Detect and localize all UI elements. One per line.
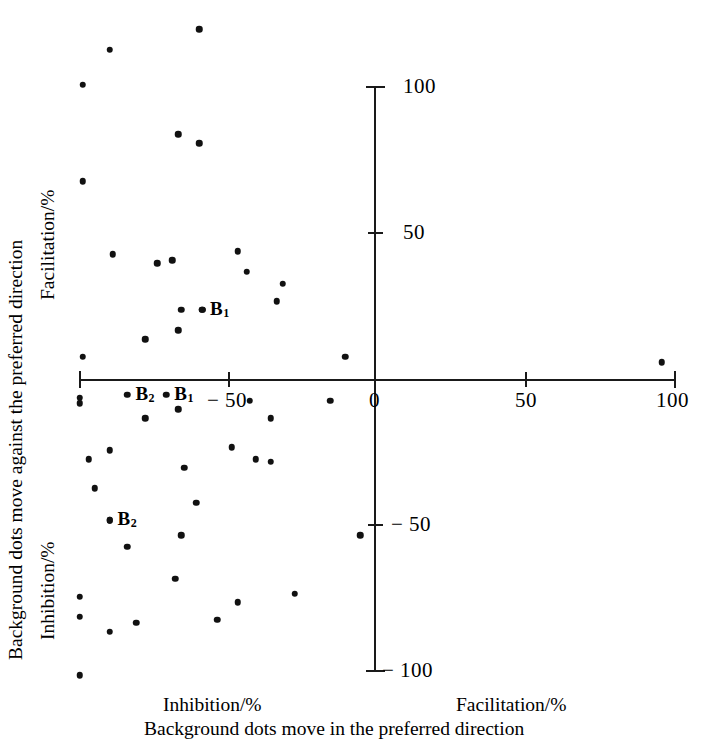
data-point — [175, 327, 182, 334]
y-tick-neg50 — [368, 524, 383, 526]
y-tick-label-50: 50 — [403, 222, 425, 243]
y-axis-upper-label: Facilitation/% — [38, 190, 58, 300]
data-point — [193, 500, 200, 507]
y-tick-label-100: 100 — [403, 76, 436, 97]
data-point — [91, 485, 98, 492]
data-point-label: B2 — [135, 384, 154, 406]
data-point — [235, 248, 242, 255]
data-point — [175, 406, 182, 413]
x-axis-title: Background dots move in the preferred di… — [144, 719, 524, 739]
data-point — [106, 447, 113, 454]
data-point — [154, 260, 161, 267]
data-point — [109, 251, 116, 258]
data-point — [196, 26, 203, 33]
data-point-label: B2 — [118, 509, 137, 531]
data-point — [178, 532, 185, 539]
x-tick-label-0: 0 — [369, 390, 380, 411]
data-point — [106, 46, 113, 53]
data-point-labeled — [124, 391, 131, 398]
x-tick-label-neg50: − 50 — [207, 390, 247, 411]
data-point — [172, 576, 179, 583]
y-axis-title: Background dots move against the preferr… — [6, 240, 26, 660]
data-point — [253, 456, 260, 463]
data-point — [169, 257, 176, 264]
x-tick-100 — [674, 371, 676, 388]
y-axis-line — [374, 86, 376, 672]
data-point — [124, 543, 131, 550]
data-point — [76, 400, 83, 407]
data-point — [76, 614, 83, 621]
x-tick-label-100: 100 — [656, 390, 689, 411]
data-point — [85, 456, 92, 463]
data-point — [142, 415, 149, 422]
data-point — [357, 532, 364, 539]
data-point-labeled — [163, 391, 170, 398]
data-point — [76, 593, 83, 600]
data-point — [659, 359, 666, 366]
data-point — [267, 459, 274, 466]
y-tick-100 — [366, 86, 385, 88]
scatter-plot: − 50 0 50 100 100 50 − 50 − 100 Backgrou… — [0, 0, 709, 748]
data-point — [279, 280, 286, 287]
data-point — [79, 81, 86, 88]
data-point — [76, 672, 83, 679]
data-point — [79, 178, 86, 185]
data-point — [291, 590, 298, 597]
data-point — [106, 628, 113, 635]
x-axis-right-label: Facilitation/% — [456, 695, 566, 715]
data-point-label: B1 — [210, 299, 229, 321]
data-point — [79, 353, 86, 360]
y-tick-label-neg50: − 50 — [391, 514, 431, 535]
data-point — [196, 140, 203, 147]
x-tick-neg100 — [79, 371, 81, 388]
data-point — [247, 397, 254, 404]
x-tick-neg50 — [228, 372, 230, 387]
data-point — [273, 298, 280, 305]
data-point-labeled — [199, 307, 206, 314]
data-point-labeled — [106, 517, 113, 524]
x-tick-label-50: 50 — [515, 390, 537, 411]
data-point — [175, 131, 182, 138]
data-point — [229, 444, 236, 451]
x-axis-left-label: Inhibition/% — [163, 695, 262, 715]
data-point — [133, 620, 140, 627]
data-point-label: B1 — [174, 384, 193, 406]
data-point — [214, 617, 221, 624]
x-tick-50 — [525, 372, 527, 387]
y-axis-lower-label: Inhibition/% — [38, 541, 58, 640]
data-point — [142, 336, 149, 343]
data-point — [342, 353, 349, 360]
y-tick-50 — [368, 232, 383, 234]
data-point — [327, 397, 334, 404]
y-tick-label-neg100: − 100 — [382, 660, 433, 681]
data-point — [235, 599, 242, 606]
data-point — [181, 465, 188, 472]
data-point — [267, 415, 274, 422]
data-point — [178, 307, 185, 314]
x-axis-line — [80, 379, 676, 381]
data-point — [244, 269, 251, 276]
